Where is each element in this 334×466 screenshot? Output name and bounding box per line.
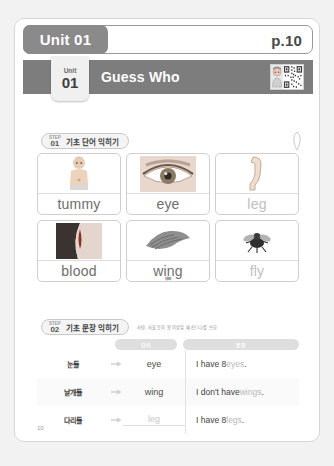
step-02-note: 사람, 사물 등이 몸 이상일 때 (단/니/를 쓰요. bbox=[137, 324, 218, 330]
step-01-marker: STEP 01 bbox=[49, 135, 61, 148]
unit-tab-number: 01 bbox=[62, 75, 79, 90]
row-sentence: I have 8 eyes. bbox=[185, 350, 299, 378]
row-sentence: I don't have wings. bbox=[185, 378, 299, 406]
table-header-row: 단어 문장 bbox=[115, 339, 299, 350]
step-02-number: 02 bbox=[50, 326, 59, 334]
card-image bbox=[38, 154, 120, 193]
step-01-number: 01 bbox=[50, 140, 59, 148]
leg-illustration bbox=[245, 155, 269, 193]
word-card[interactable]: 배 tummy bbox=[37, 153, 121, 215]
row-word[interactable]: eye bbox=[123, 359, 185, 369]
worksheet-page: Unit 01 p.10 Unit 01 Guess Who bbox=[14, 18, 320, 442]
card-image bbox=[216, 221, 298, 260]
row-korean: 날개들 bbox=[37, 387, 109, 397]
sentence-highlight: eyes bbox=[226, 359, 244, 369]
table-row: 날개들 wing I don't have wings. bbox=[37, 378, 299, 406]
card-word: tummy bbox=[38, 193, 120, 214]
column-header-sentence: 문장 bbox=[183, 339, 299, 350]
step-02-marker: STEP 02 bbox=[49, 321, 61, 334]
card-image bbox=[127, 154, 209, 193]
arrow-icon bbox=[109, 389, 123, 395]
sentence-suffix: . bbox=[261, 387, 263, 397]
table-row: 다리들 leg I have 8 legs. bbox=[37, 406, 299, 434]
row-word[interactable]: wing bbox=[123, 387, 185, 397]
word-card-grid: 배 tummy 눈 eye bbox=[37, 153, 299, 282]
row-korean: 눈들 bbox=[37, 359, 109, 369]
row-korean: 다리들 bbox=[37, 415, 109, 425]
qr-matrix bbox=[283, 65, 303, 89]
word-card[interactable]: 파리 fly bbox=[215, 220, 299, 282]
step-02-label: 기초 문장 익히기 bbox=[66, 322, 119, 333]
fly-insect-photo bbox=[240, 228, 274, 254]
blood-photo bbox=[56, 223, 102, 259]
sentence-table: 단어 문장 눈들 eye I have 8 eyes. 날개들 wing I d… bbox=[37, 339, 299, 434]
sentence-suffix: . bbox=[244, 359, 246, 369]
card-word: leg bbox=[216, 193, 298, 214]
card-image bbox=[127, 221, 209, 260]
unit-banner: Unit 01 Guess Who bbox=[23, 60, 313, 94]
unit-tab: Unit 01 bbox=[51, 56, 89, 101]
word-card[interactable]: 눈 eye bbox=[126, 153, 210, 215]
qr-code-icon[interactable] bbox=[270, 64, 304, 90]
arrow-icon bbox=[109, 361, 123, 367]
card-image bbox=[216, 154, 298, 193]
card-korean: 파리 bbox=[215, 276, 299, 281]
sentence-prefix: I don't have bbox=[196, 387, 240, 397]
unit-title: Guess Who bbox=[101, 60, 180, 94]
sentence-highlight: legs bbox=[226, 415, 242, 425]
row-sentence: I have 8 legs. bbox=[185, 406, 299, 434]
word-card[interactable]: 다리 leg bbox=[215, 153, 299, 215]
column-header-word: 단어 bbox=[115, 339, 177, 350]
mascot-icon bbox=[271, 65, 283, 89]
word-card[interactable]: 피 blood bbox=[37, 220, 121, 282]
page-reference: p.10 bbox=[271, 26, 302, 55]
row-word-blank[interactable]: leg bbox=[123, 414, 185, 426]
sentence-prefix: I have 8 bbox=[196, 359, 226, 369]
sentence-highlight: wings bbox=[240, 387, 262, 397]
step-02-pill: STEP 02 기초 문장 익히기 bbox=[41, 319, 129, 335]
sentence-suffix: . bbox=[242, 415, 244, 425]
page-number: 10 bbox=[37, 425, 44, 431]
page-titlebar: Unit 01 p.10 bbox=[23, 25, 313, 54]
arrow-icon bbox=[109, 417, 123, 423]
unit-badge: Unit 01 bbox=[23, 25, 108, 54]
pencil-icon[interactable] bbox=[291, 131, 303, 151]
step-01-label: 기초 단어 익히기 bbox=[66, 136, 119, 147]
table-row: 눈들 eye I have 8 eyes. bbox=[37, 350, 299, 378]
wing-photo bbox=[144, 226, 192, 256]
word-card[interactable]: 날개 wing bbox=[126, 220, 210, 282]
human-eye-photo bbox=[140, 156, 196, 192]
step-01-pill: STEP 01 기초 단어 익히기 bbox=[41, 133, 129, 149]
sentence-prefix: I have 8 bbox=[196, 415, 226, 425]
card-word: eye bbox=[127, 193, 209, 214]
card-image bbox=[38, 221, 120, 260]
toddler-belly-photo bbox=[62, 155, 96, 193]
